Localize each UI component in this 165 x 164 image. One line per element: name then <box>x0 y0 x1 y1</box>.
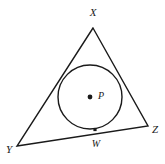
vertex-label-z: Z <box>152 123 159 135</box>
tangent-point-w-marker <box>93 128 96 131</box>
vertex-label-y: Y <box>6 143 14 155</box>
geometry-figure: X Y Z W P <box>0 0 165 164</box>
point-label-w: W <box>92 138 102 149</box>
figure-canvas: X Y Z W P <box>0 0 165 164</box>
vertex-label-x: X <box>89 6 98 18</box>
center-point-p-marker <box>88 95 93 100</box>
point-label-p: P <box>97 90 104 101</box>
